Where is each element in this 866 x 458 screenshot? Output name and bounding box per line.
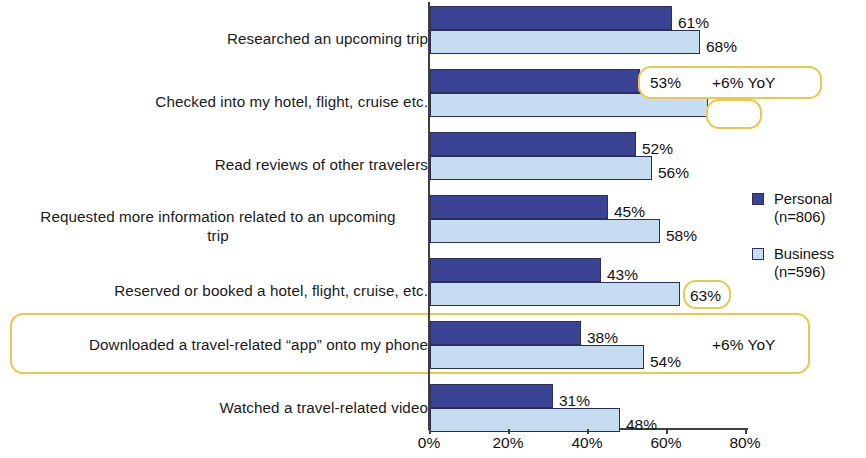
annotation-yoy-checked-in: +6% YoY: [712, 75, 775, 91]
category-label-downloaded-app: Downloaded a travel-related “app” onto m…: [8, 336, 428, 355]
bar-personal-read-reviews: [430, 132, 636, 156]
x-tick-label-60: 60%: [638, 434, 694, 452]
bar-business-reserved-booked: [430, 282, 680, 306]
value-label-personal-reserved-booked: 43%: [607, 267, 638, 283]
value-label-business-requested-info: 58%: [666, 228, 697, 244]
legend-count-personal: (n=806): [774, 208, 834, 226]
category-label-checked-in: Checked into my hotel, flight, cruise et…: [8, 93, 428, 112]
category-label-requested-info: Requested more information related to an…: [8, 208, 428, 245]
annotation-yoy-downloaded-app: +6% YoY: [712, 337, 775, 353]
legend-count-business: (n=596): [774, 263, 834, 281]
bar-personal-reserved-booked: [430, 258, 601, 282]
x-tick-label-40: 40%: [559, 434, 615, 452]
category-label-reserved-booked: Reserved or booked a hotel, flight, crui…: [8, 282, 428, 301]
x-tick-label-0: 0%: [401, 434, 457, 452]
value-label-personal-researched: 61%: [678, 15, 709, 31]
value-label-personal-requested-info: 45%: [614, 204, 645, 220]
bar-business-researched: [430, 30, 700, 54]
x-tick-label-20: 20%: [480, 434, 536, 452]
bar-personal-checked-in: [430, 69, 640, 93]
value-label-personal-downloaded-app: 38%: [587, 330, 618, 346]
x-tick-label-80: 80%: [717, 434, 773, 452]
bar-business-read-reviews: [430, 156, 652, 180]
legend: Personal (n=806) Business (n=596): [752, 190, 834, 300]
category-label-read-reviews: Read reviews of other travelers: [8, 156, 428, 175]
bar-business-requested-info: [430, 219, 660, 243]
highlight-box-checked-in-business: [706, 99, 762, 129]
legend-label-business: Business: [774, 245, 834, 263]
category-label-watched-video: Watched a travel-related video: [8, 399, 428, 418]
chart-container: Researched an upcoming trip Checked into…: [0, 0, 866, 458]
value-label-personal-checked-in: 53%: [650, 75, 681, 91]
category-label-requested-info-line2: trip: [207, 227, 229, 244]
legend-swatch-business-icon: [752, 248, 764, 260]
bar-business-watched-video: [430, 408, 620, 432]
value-label-personal-read-reviews: 52%: [642, 141, 673, 157]
bar-personal-downloaded-app: [430, 321, 581, 345]
value-label-business-downloaded-app: 54%: [650, 354, 681, 370]
bar-personal-requested-info: [430, 195, 608, 219]
legend-item-personal: Personal (n=806): [752, 190, 834, 227]
category-label-researched: Researched an upcoming trip: [8, 30, 428, 49]
value-label-business-read-reviews: 56%: [658, 165, 689, 181]
plot-area: 0% 20% 40% 60% 80%: [428, 0, 748, 430]
bar-business-downloaded-app: [430, 345, 644, 369]
value-label-business-watched-video: 48%: [626, 417, 657, 433]
legend-item-business: Business (n=596): [752, 245, 834, 282]
value-label-personal-watched-video: 31%: [559, 393, 590, 409]
bar-personal-watched-video: [430, 384, 553, 408]
category-label-requested-info-line1: Requested more information related to an…: [40, 208, 395, 225]
value-label-business-reserved-booked: 63%: [690, 288, 721, 304]
legend-swatch-personal-icon: [752, 193, 764, 205]
legend-label-personal: Personal: [774, 190, 834, 208]
bar-personal-researched: [430, 6, 672, 30]
value-label-business-researched: 68%: [706, 39, 737, 55]
